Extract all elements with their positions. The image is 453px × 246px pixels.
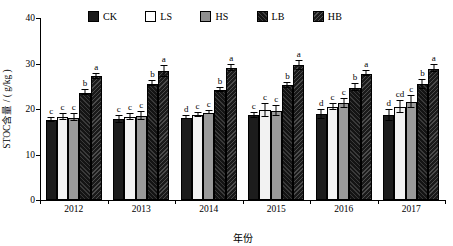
error-bar-cap-top: [295, 60, 302, 61]
error-bar-lower: [411, 102, 412, 108]
bar-rect: [271, 111, 282, 200]
significance-letter: a: [229, 54, 233, 63]
bar-rect: [46, 120, 57, 200]
bar-ck-2012[interactable]: c: [46, 18, 57, 200]
error-bar-cap-top: [351, 83, 358, 84]
y-tick-label: 0: [30, 195, 35, 205]
bar-ls-2012[interactable]: c: [57, 18, 68, 200]
bar-hs-2016[interactable]: c: [338, 18, 349, 200]
significance-letter: d: [184, 105, 189, 114]
error-bar-lower: [118, 119, 119, 123]
bar-rect: [68, 118, 79, 200]
bar-rect: [91, 76, 102, 200]
error-bar-lower: [208, 113, 209, 115]
bar-lb-2017[interactable]: b: [417, 18, 428, 200]
bar-rect: [316, 114, 327, 200]
error-bar-cap-top: [216, 87, 223, 88]
bar-ls-2015[interactable]: c: [259, 18, 270, 200]
x-tick-label-2014: 2014: [199, 204, 218, 214]
x-tick-mark: [108, 200, 109, 204]
error-bar-lower: [287, 85, 288, 88]
bar-ck-2015[interactable]: c: [248, 18, 259, 200]
bar-rect: [248, 115, 259, 200]
y-tick-label: 40: [26, 13, 36, 23]
significance-letter: c: [274, 95, 278, 104]
significance-letter: d: [387, 99, 392, 108]
bar-rect: [124, 117, 135, 200]
error-bar-cap-top: [408, 95, 415, 96]
error-bar-lower: [366, 74, 367, 77]
bar-rect: [181, 118, 192, 200]
error-bar-cap-top: [160, 65, 167, 66]
error-bar-lower: [253, 115, 254, 117]
x-tick-mark: [40, 200, 41, 204]
bar-ls-2014[interactable]: c: [192, 18, 203, 200]
bar-ls-2013[interactable]: c: [124, 18, 135, 200]
bar-rect: [113, 119, 124, 200]
bar-ck-2014[interactable]: d: [181, 18, 192, 200]
error-bar-lower: [433, 69, 434, 73]
significance-letter: cd: [396, 90, 405, 99]
significance-letter: c: [128, 103, 132, 112]
y-tick-label: 20: [26, 104, 36, 114]
bar-hs-2012[interactable]: c: [68, 18, 79, 200]
bar-lb-2015[interactable]: b: [282, 18, 293, 200]
error-bar-lower: [141, 116, 142, 120]
bar-rect: [259, 110, 270, 200]
x-axis-title: 年份: [40, 230, 445, 245]
bar-hs-2013[interactable]: c: [136, 18, 147, 200]
significance-letter: c: [263, 93, 267, 102]
bar-hb-2013[interactable]: a: [158, 18, 169, 200]
significance-letter: a: [297, 50, 301, 59]
error-bar-lower: [321, 114, 322, 119]
bar-hb-2014[interactable]: a: [226, 18, 237, 200]
bar-lb-2013[interactable]: b: [147, 18, 158, 200]
bar-ls-2016[interactable]: c: [327, 18, 338, 200]
error-bar-cap-top: [183, 115, 190, 116]
bar-group-2017: dcdcba: [378, 18, 446, 200]
bar-hs-2014[interactable]: c: [203, 18, 214, 200]
significance-letter: a: [364, 60, 368, 69]
significance-letter: b: [150, 70, 155, 79]
bar-rect: [361, 74, 372, 200]
significance-letter: b: [285, 72, 290, 81]
x-tick-label-2012: 2012: [64, 204, 83, 214]
error-bar: [265, 104, 266, 111]
bar-hb-2016[interactable]: a: [361, 18, 372, 200]
error-bar-lower: [152, 84, 153, 86]
significance-letter: c: [207, 100, 211, 109]
bar-rect: [282, 85, 293, 200]
significance-letter: b: [218, 77, 223, 86]
bar-rect: [293, 65, 304, 200]
error-bar-cap-top: [397, 100, 404, 101]
bar-ck-2016[interactable]: d: [316, 18, 327, 200]
significance-letter: c: [252, 102, 256, 111]
bar-hb-2017[interactable]: a: [428, 18, 439, 200]
significance-letter: c: [331, 93, 335, 102]
bar-rect: [57, 117, 68, 200]
bar-ck-2013[interactable]: c: [113, 18, 124, 200]
bar-lb-2012[interactable]: b: [79, 18, 90, 200]
bar-rect: [327, 107, 338, 200]
error-bar-cap-top: [250, 112, 257, 113]
error-bar-cap-top: [329, 103, 336, 104]
bar-hs-2017[interactable]: c: [406, 18, 417, 200]
error-bar-lower: [62, 117, 63, 120]
bar-lb-2014[interactable]: b: [214, 18, 225, 200]
x-tick-mark: [445, 200, 446, 204]
error-bar-lower: [332, 107, 333, 110]
significance-letter: c: [196, 102, 200, 111]
bar-ls-2017[interactable]: cd: [394, 18, 405, 200]
bar-hb-2012[interactable]: a: [91, 18, 102, 200]
plot-area: STOC含量 / ( g/kg ) 010203040 201220132014…: [40, 18, 445, 200]
bar-lb-2016[interactable]: b: [349, 18, 360, 200]
bar-rect: [79, 93, 90, 200]
bar-ck-2017[interactable]: d: [383, 18, 394, 200]
error-bar-lower: [186, 118, 187, 120]
y-tick-label: 30: [26, 59, 36, 69]
bar-hb-2015[interactable]: a: [293, 18, 304, 200]
y-axis-title: STOC含量 / ( g/kg ): [0, 69, 13, 148]
bar-group-2016: dccba: [310, 18, 378, 200]
bar-hs-2015[interactable]: c: [271, 18, 282, 200]
x-tick-label-2016: 2016: [334, 204, 353, 214]
